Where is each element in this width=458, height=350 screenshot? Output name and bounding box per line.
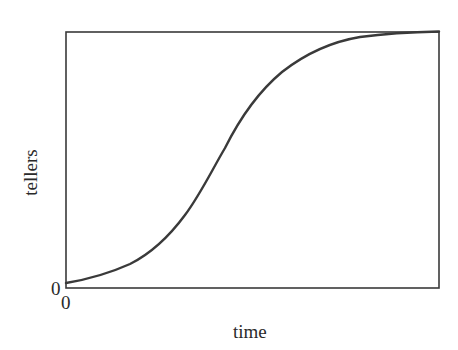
x-axis-label: time [233,322,267,341]
plot-frame [66,32,439,288]
y-axis-label: tellers [21,143,40,203]
logistic-curve [66,32,439,284]
x-origin-tick-label: 0 [61,293,71,312]
y-origin-tick-label: 0 [51,279,61,298]
